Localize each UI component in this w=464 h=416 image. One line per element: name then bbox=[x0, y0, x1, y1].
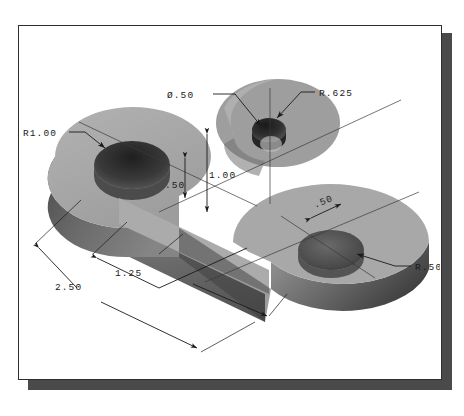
part-solid bbox=[48, 79, 429, 322]
isometric-part-drawing: R1.00 Ø.50 R.625 R.50 1.00 .50 .50 1.25 … bbox=[19, 26, 440, 378]
label-1-00: 1.00 bbox=[209, 170, 236, 181]
label-r-625: R.625 bbox=[319, 88, 353, 99]
drawing-canvas: R1.00 Ø.50 R.625 R.50 1.00 .50 .50 1.25 … bbox=[0, 0, 464, 416]
boss-hole-highlight bbox=[260, 136, 282, 152]
label-2-50: 2.50 bbox=[55, 282, 82, 293]
label-50-vertical: .50 bbox=[165, 180, 185, 191]
label-dia-50: Ø.50 bbox=[167, 90, 194, 101]
label-1-25: 1.25 bbox=[115, 268, 142, 279]
c-inner-bore bbox=[94, 141, 170, 189]
drawing-sheet: R1.00 Ø.50 R.625 R.50 1.00 .50 .50 1.25 … bbox=[18, 25, 442, 380]
label-r-50: R.50 bbox=[415, 262, 440, 273]
label-r1-00: R1.00 bbox=[23, 128, 57, 139]
